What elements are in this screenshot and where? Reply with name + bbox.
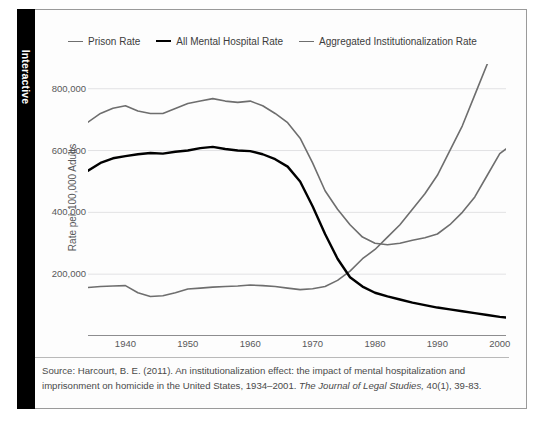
source-journal-title: The Journal of Legal Studies, xyxy=(299,380,424,391)
x-tick-label: 1950 xyxy=(177,338,198,349)
line-chart-svg xyxy=(88,64,506,336)
x-tick-label: 1990 xyxy=(427,338,448,349)
x-tick-label: 1960 xyxy=(240,338,261,349)
legend-item[interactable]: All Mental Hospital Rate xyxy=(156,36,283,47)
figure-container: Interactive Prison RateAll Mental Hospit… xyxy=(0,0,535,425)
y-axis-ticks: Rate per 100,000 Adults 200,000400,00060… xyxy=(36,64,86,336)
legend-line-swatch xyxy=(156,40,171,42)
gridlines xyxy=(88,89,506,274)
y-tick-label: 600,000 xyxy=(52,145,86,156)
interactive-tab-label: Interactive xyxy=(20,50,32,105)
legend-item[interactable]: Prison Rate xyxy=(68,36,140,47)
x-tick-label: 1980 xyxy=(364,338,385,349)
series-line xyxy=(88,99,506,245)
x-tick-label: 1970 xyxy=(302,338,323,349)
series-line xyxy=(88,64,506,296)
legend-line-swatch xyxy=(68,41,83,42)
legend-line-swatch xyxy=(299,41,314,42)
y-tick-label: 200,000 xyxy=(52,268,86,279)
interactive-side-tab[interactable]: Interactive xyxy=(17,9,35,409)
legend-label: Aggregated Institutionalization Rate xyxy=(319,36,477,47)
source-caption: Source: Harcourt, B. E. (2011). An insti… xyxy=(42,364,500,394)
source-line-2-b: 40(1), 39-83. xyxy=(424,380,482,391)
x-tick-label: 2000 xyxy=(489,338,510,349)
series-lines xyxy=(88,64,506,317)
legend-item[interactable]: Aggregated Institutionalization Rate xyxy=(299,36,477,47)
caption-divider xyxy=(35,357,509,358)
x-tick-label: 1940 xyxy=(115,338,136,349)
x-axis-ticks: 1940195019601970198019902000 xyxy=(88,338,506,354)
axis-lines xyxy=(88,336,506,337)
chart-legend: Prison RateAll Mental Hospital RateAggre… xyxy=(35,30,510,52)
series-line xyxy=(88,147,506,318)
y-axis-title: Rate per 100,000 Adults xyxy=(67,118,78,278)
plot-area xyxy=(88,64,506,336)
y-tick-label: 800,000 xyxy=(52,83,86,94)
legend-label: Prison Rate xyxy=(88,36,140,47)
legend-label: All Mental Hospital Rate xyxy=(176,36,283,47)
source-line-2-a: on homicide in the United States, 1934–2… xyxy=(102,380,299,391)
y-tick-label: 400,000 xyxy=(52,206,86,217)
